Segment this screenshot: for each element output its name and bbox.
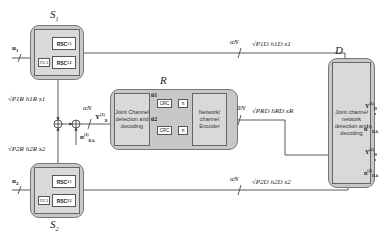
node-s1-title: S1	[50, 8, 59, 22]
network-channel-encoder: Network/ channel Encoder	[192, 93, 227, 146]
node-r-title: R	[160, 74, 167, 86]
y-d2-label: Y(2)D	[365, 147, 377, 157]
u1-hat-label: û1	[151, 92, 157, 98]
node-r: Joint Channel detection and decoding û1 …	[110, 89, 238, 150]
y-d1-label: Y(1)D	[365, 101, 377, 111]
s2-d-slash-label: αN	[230, 175, 238, 183]
r-d-signal-label: √PRD hRD xR	[252, 107, 293, 115]
destination-detector: Joint channel network detection and deco…	[332, 62, 371, 184]
pi-1: π	[178, 99, 188, 108]
input-u2-label: u2	[12, 177, 18, 186]
crc-2: CRC	[157, 126, 172, 135]
relay-detector: Joint Channel detection and decoding	[114, 93, 150, 146]
rsc-1-1: RSC1,1	[52, 37, 76, 50]
noise-d2-label: n(2)D,k	[364, 168, 378, 178]
r-in-slash-label: αN	[83, 104, 91, 112]
rsc-2-1: RSC2,1	[52, 175, 76, 188]
node-s2-title: S2	[50, 218, 59, 232]
pi-2: π	[178, 126, 188, 135]
s1-d-slash-label: αN	[230, 38, 238, 46]
node-s1: RSC1,1 Π1,1 RSC1,2	[30, 25, 84, 80]
s2-r-signal-label: √P2R h2R x2	[8, 145, 45, 153]
interleaver-1: Π1,1	[38, 58, 50, 67]
y-r-label: Y(1)R	[95, 112, 108, 123]
s1-d-signal-label: √P1D h1D x1	[252, 40, 291, 48]
rsc-2-2: RSC2,2	[52, 194, 76, 207]
input-u1-label: u1	[12, 44, 18, 53]
rsc-1-2: RSC1,2	[52, 56, 76, 69]
noise-d1-label: n(1)D,k	[364, 124, 378, 134]
s1-r-signal-label: √P1R h1R x1	[8, 95, 45, 103]
node-s2: RSC2,1 Π2,1 RSC2,2	[30, 163, 84, 218]
crc-1: CRC	[157, 99, 172, 108]
interleaver-2: Π2,1	[38, 196, 50, 205]
noise-r-label: n(1)R,k	[80, 132, 95, 143]
s2-d-signal-label: √P2D h2D x2	[252, 178, 291, 186]
r-d-slash-label: ᾱN	[237, 104, 245, 112]
u2-hat-label: û2	[151, 116, 157, 122]
node-d-title: D	[335, 44, 343, 56]
